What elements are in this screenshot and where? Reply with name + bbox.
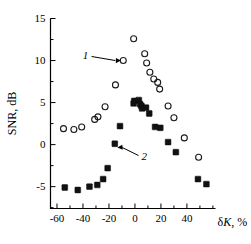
- data-point-filled-square: [94, 182, 100, 188]
- data-point-filled-square: [146, 111, 152, 117]
- data-point-filled-square: [75, 187, 81, 193]
- data-point-filled-square: [112, 141, 118, 147]
- y-tick-label: -5: [36, 180, 46, 192]
- data-point-filled-square: [117, 123, 123, 129]
- data-point-open-circle: [144, 60, 150, 66]
- data-point-open-circle: [79, 124, 85, 130]
- snr-scatter-chart: -5051015-60-40-2002040 12 SNR, dBδK, %: [0, 0, 251, 244]
- data-point-open-circle: [71, 126, 77, 132]
- data-point-open-circle: [151, 76, 157, 82]
- data-point-filled-square: [143, 105, 149, 111]
- data-point-open-circle: [181, 135, 187, 141]
- data-point-open-circle: [142, 51, 148, 57]
- x-axis-title: δK, %: [218, 215, 248, 229]
- data-point-open-circle: [147, 69, 153, 75]
- data-point-filled-square: [157, 125, 163, 131]
- series-2-arrow-line: [122, 147, 139, 155]
- series-1-label: 1: [83, 49, 89, 61]
- data-point-filled-square: [195, 176, 201, 182]
- y-tick-label: 10: [35, 54, 47, 66]
- x-tick-label: -40: [76, 212, 91, 224]
- y-axis-title: SNR, dB: [5, 92, 19, 135]
- series-1: [60, 36, 201, 161]
- data-point-filled-square: [100, 176, 106, 182]
- x-tick-label: 20: [155, 212, 167, 224]
- axis-spines: [51, 19, 216, 209]
- data-point-filled-square: [173, 149, 179, 155]
- data-point-open-circle: [155, 79, 161, 85]
- series-1-arrow-line: [92, 56, 116, 60]
- data-point-filled-square: [165, 139, 171, 145]
- x-axis-title-unit: , %: [231, 215, 247, 229]
- y-tick-label: 15: [35, 12, 47, 24]
- axes: -5051015-60-40-2002040: [35, 12, 216, 223]
- data-point-open-circle: [112, 82, 118, 88]
- series-2-arrow-head: [117, 145, 123, 150]
- series-2: [62, 97, 209, 193]
- data-point-filled-square: [105, 165, 111, 171]
- series-2-label: 2: [142, 150, 148, 162]
- data-point-filled-square: [62, 185, 68, 191]
- y-tick-label: 0: [40, 138, 46, 150]
- data-point-open-circle: [102, 104, 108, 110]
- data-point-open-circle: [165, 103, 171, 109]
- figure-container: -5051015-60-40-2002040 12 SNR, dBδK, %: [0, 0, 251, 244]
- data-point-filled-square: [204, 181, 210, 187]
- data-point-open-circle: [131, 36, 137, 42]
- y-tick-label: 5: [40, 96, 46, 108]
- data-point-open-circle: [120, 58, 126, 64]
- data-point-filled-square: [87, 184, 93, 190]
- x-tick-label: 0: [132, 212, 138, 224]
- series-1-arrow-head: [116, 58, 121, 63]
- x-tick-label: -20: [102, 212, 117, 224]
- x-tick-label: 40: [181, 212, 193, 224]
- data-point-open-circle: [196, 154, 202, 160]
- data-point-open-circle: [60, 126, 66, 132]
- data-point-open-circle: [157, 86, 163, 92]
- data-point-open-circle: [171, 115, 177, 121]
- data-point-filled-square: [152, 124, 158, 130]
- x-tick-label: -60: [50, 212, 65, 224]
